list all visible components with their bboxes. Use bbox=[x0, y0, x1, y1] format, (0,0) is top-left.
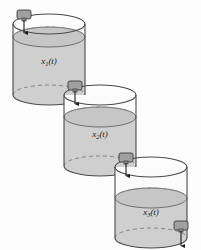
tank-3-level-label: x3(t) bbox=[142, 207, 159, 218]
tank-cascade-diagram: x1(t) x2(t) bbox=[0, 0, 201, 250]
tank-2-level-label: x2(t) bbox=[91, 129, 108, 140]
outlet-valve-body[interactable] bbox=[174, 221, 188, 230]
tank2-to-tank3-valve-body[interactable] bbox=[119, 153, 133, 162]
tank-1-level-label: x1(t) bbox=[40, 56, 57, 67]
tank-cascade-figure: x1(t) x2(t) bbox=[0, 0, 201, 250]
inlet-valve-body[interactable] bbox=[17, 10, 31, 19]
